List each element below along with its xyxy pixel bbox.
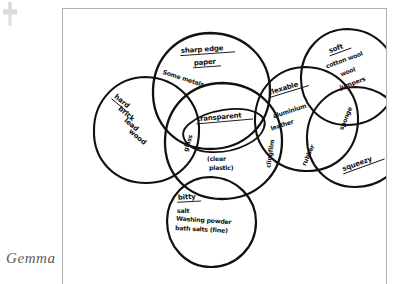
label-group-hard: hard brick lead wood [111, 92, 147, 147]
screenshot-root: Gemma [0, 0, 405, 284]
label-flexable-item-1: leather [270, 117, 296, 131]
label-soft-item-1: wool [339, 65, 356, 77]
label-transparent-item-0: (clear [207, 155, 227, 162]
worksheet-frame: sharp edge paper hard brick lead wood [62, 8, 387, 284]
label-soft-item-2: jumpers [338, 75, 367, 92]
venn-diagram: sharp edge paper hard brick lead wood [63, 9, 387, 284]
venn-circles [94, 29, 387, 267]
label-sharp-edge-item-0: paper [194, 58, 217, 68]
circle-transparent[interactable] [165, 83, 282, 199]
label-bitty-item-2: bath salts (fine) [175, 224, 228, 234]
label-hard-item-2: wood [127, 127, 148, 146]
label-group-sharp-edge: sharp edge paper [180, 43, 236, 68]
label-some-metals: Some metals [162, 68, 205, 88]
label-sponge: sponge [338, 106, 354, 131]
label-group-transparent-items: (clear plastic) [207, 155, 234, 172]
label-group-soft: soft cotton wool wool jumpers [325, 40, 367, 92]
label-group-transparent: transparent [196, 110, 254, 124]
page-caption: Gemma [6, 250, 56, 267]
label-group-some-metals: Some metals [162, 68, 205, 88]
label-group-sponge: sponge [338, 106, 354, 131]
label-flexable-heading: flexable [268, 80, 299, 97]
label-flexable-item-0: aluminium [272, 102, 307, 119]
label-bitty-heading: bitty [178, 193, 197, 202]
label-bitty-item-0: salt [177, 207, 189, 214]
label-clingfilm: clingfilm [264, 139, 276, 168]
circle-squeezy[interactable] [307, 87, 387, 187]
staple-mark-icon [3, 2, 17, 26]
label-group-flexable-items: aluminium leather [270, 102, 307, 132]
label-group-clingfilm: clingfilm [264, 139, 276, 168]
label-squeezy-heading: squeezy [341, 155, 373, 173]
label-transparent-item-1: plastic) [209, 164, 234, 172]
